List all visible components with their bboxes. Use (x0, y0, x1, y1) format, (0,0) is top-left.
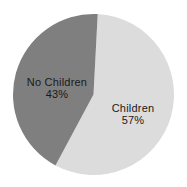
pie-chart: No Children 43% Children 57% (0, 0, 187, 187)
slice-label-no-children: No Children 43% (27, 76, 87, 100)
slice-label-children: Children 57% (112, 102, 155, 126)
slice-label-children-pct: 57% (112, 114, 155, 126)
slice-label-children-text: Children (112, 102, 155, 114)
slice-label-no-children-pct: 43% (27, 88, 87, 100)
slice-label-no-children-text: No Children (27, 76, 87, 88)
